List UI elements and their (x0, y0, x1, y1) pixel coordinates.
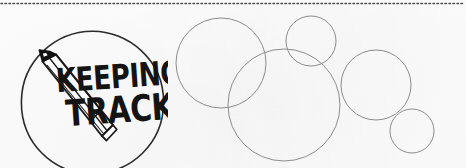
circle-bottom-right (390, 109, 434, 153)
logo-title-line-2: TRACK (64, 85, 168, 135)
banner-canvas: KEEPING TRACK (0, 0, 466, 168)
circle-top-left (176, 18, 266, 108)
logo-wordmark: KEEPING TRACK (55, 53, 168, 135)
circle-center-large (228, 49, 340, 161)
logo-badge: KEEPING TRACK (16, 26, 168, 168)
circle-right-mid (341, 50, 411, 120)
circle-top-small (286, 16, 336, 66)
